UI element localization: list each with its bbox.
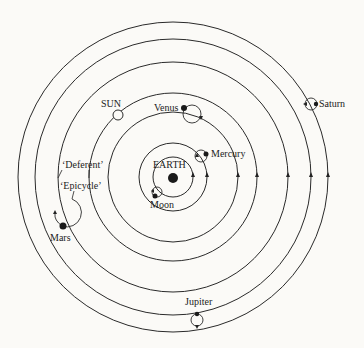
earth-icon: [168, 173, 178, 183]
earth-label: EARTH: [153, 159, 186, 170]
epicycle-label: ‘Epicycle’: [60, 180, 102, 191]
saturn-icon: [314, 102, 318, 106]
geocentric-diagram: EARTH Moon Mercury Venus SUN ‘Deferent’ …: [0, 0, 364, 348]
venus-label: Venus: [154, 102, 179, 113]
moon-label: Moon: [150, 199, 174, 210]
jupiter-icon: [195, 312, 199, 316]
epicycle-pointer: [72, 191, 74, 199]
arrow-mercury-orbit: [205, 172, 209, 177]
arrow-venus-orbit: [236, 172, 240, 177]
moon-icon: [153, 194, 158, 199]
saturn-label: Saturn: [319, 98, 345, 109]
venus-icon: [181, 105, 187, 111]
deferent-label: ‘Deferent’: [62, 159, 104, 170]
jupiter-epicycle-arrow: [195, 325, 199, 329]
jupiter-label: Jupiter: [185, 296, 213, 307]
arrow-mars-orbit: [286, 172, 290, 177]
mars-label: Mars: [50, 232, 71, 243]
sun-label: SUN: [101, 98, 121, 109]
direction-arrows: [191, 172, 330, 177]
arrow-saturn-orbit: [326, 172, 330, 177]
mercury-icon: [204, 152, 209, 157]
mars-epicycle: [62, 199, 81, 227]
arrow-jupiter-orbit: [309, 172, 313, 177]
arrow-moon-orbit: [191, 172, 195, 177]
sun-icon: [113, 110, 123, 120]
mars-epicycle-arrow: [53, 210, 57, 214]
arrow-sun-orbit: [255, 172, 259, 177]
mercury-label: Mercury: [211, 148, 245, 159]
mars-icon: [60, 223, 67, 230]
